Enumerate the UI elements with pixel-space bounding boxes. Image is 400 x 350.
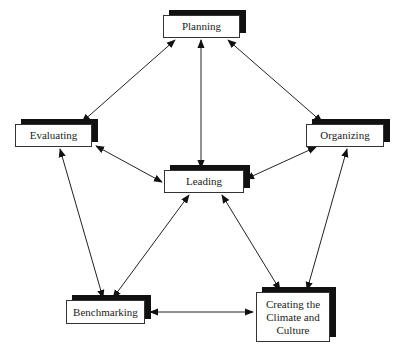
node-planning: Planning (163, 10, 246, 38)
node-label: Organizing (306, 124, 384, 147)
arrow-evaluating-leading (96, 146, 162, 182)
node-label: Leading (164, 170, 244, 193)
arrow-evaluating-benchmarking (60, 149, 103, 298)
node-label: Benchmarking (66, 300, 145, 324)
arrow-planning-organizing (228, 40, 322, 122)
management-cycle-diagram: Planning Evaluating Organizing Leading B… (0, 0, 400, 350)
arrow-organizing-leading (246, 147, 316, 179)
node-label: Creating the Climate and Culture (256, 292, 330, 342)
arrow-leading-benchmarking (113, 195, 189, 298)
arrow-planning-evaluating (82, 40, 175, 122)
node-creating-climate-culture: Creating the Climate and Culture (256, 287, 336, 342)
node-label: Evaluating (15, 124, 92, 147)
arrow-leading-creating (222, 195, 280, 290)
node-benchmarking: Benchmarking (66, 295, 151, 324)
node-leading: Leading (164, 165, 250, 193)
node-evaluating: Evaluating (15, 119, 98, 147)
node-organizing: Organizing (306, 119, 390, 147)
arrow-organizing-creating (307, 149, 347, 290)
node-label: Planning (163, 15, 240, 38)
